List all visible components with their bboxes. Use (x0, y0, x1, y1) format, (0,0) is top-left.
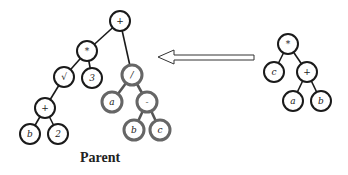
node-label: √ (61, 72, 67, 82)
node-label: b (318, 96, 324, 106)
node-label: b (27, 129, 33, 139)
subtree-node: b (311, 91, 331, 111)
subtree-node: a (283, 91, 303, 111)
parent-tree-node: √ (54, 67, 74, 87)
node-label: 2 (54, 129, 61, 139)
node-label: - (145, 97, 148, 107)
parent-tree-node: 3 (82, 68, 102, 88)
subtree-node: + (297, 62, 317, 82)
node-label: + (303, 67, 311, 77)
parent-tree-node: + (110, 11, 130, 31)
subtree-node: * (278, 34, 298, 54)
node-label: c (271, 67, 276, 77)
parent-tree-node: / (122, 65, 142, 85)
parent-tree-node: - (137, 92, 157, 112)
left-arrow-icon (158, 50, 254, 64)
node-label: + (116, 16, 124, 26)
node-label: + (41, 103, 49, 113)
parent-tree-node: b (124, 120, 144, 140)
parent-tree-node: 2 (48, 124, 68, 144)
parent-tree-node: + (35, 98, 55, 118)
node-label: b (131, 125, 137, 135)
subtree-node: c (264, 62, 284, 82)
crossover-diagram: +*√3+b2/a-bc*c+ab Parent (0, 0, 348, 175)
parent-caption: Parent (80, 150, 121, 165)
node-label: * (85, 46, 90, 56)
node-label: * (286, 39, 291, 49)
node-label: 3 (89, 73, 95, 83)
parent-tree-node: * (77, 41, 97, 61)
node-label: a (109, 97, 114, 107)
node-label: c (157, 125, 162, 135)
parent-tree-node: c (150, 120, 170, 140)
parent-tree-node: a (102, 92, 122, 112)
node-label: a (290, 96, 295, 106)
tree-nodes: +*√3+b2/a-bc*c+ab (20, 11, 331, 144)
parent-tree-node: b (20, 124, 40, 144)
